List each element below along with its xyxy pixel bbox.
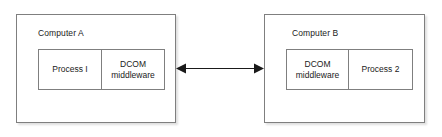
computer-a-box: Computer A Process I DCOMmiddleware	[16, 14, 176, 123]
computer-b-middleware-cell: DCOMmiddleware	[287, 50, 349, 89]
computer-a-inner-box: Process I DCOMmiddleware	[38, 49, 165, 90]
computer-a-process-cell: Process I	[39, 50, 102, 89]
computer-b-process-cell: Process 2	[349, 50, 412, 89]
computer-a-label: Computer A	[38, 28, 84, 38]
dcom-architecture-diagram: Computer A Process I DCOMmiddleware Comp…	[0, 0, 442, 137]
computer-b-inner-box: DCOMmiddleware Process 2	[286, 49, 413, 90]
computer-a-middleware-cell: DCOMmiddleware	[102, 50, 164, 89]
computer-b-label: Computer B	[292, 28, 338, 38]
bidirectional-arrow	[176, 62, 264, 75]
bidirectional-arrow-icon	[176, 62, 264, 75]
computer-b-box: Computer B DCOMmiddleware Process 2	[264, 14, 425, 123]
